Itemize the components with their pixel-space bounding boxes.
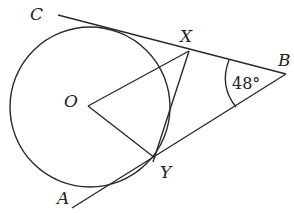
- angle-label: 48°: [232, 74, 260, 93]
- segment-oy: [88, 106, 155, 158]
- label-a: A: [55, 188, 69, 208]
- label-c: C: [30, 4, 43, 24]
- label-x: X: [178, 26, 193, 46]
- label-o: O: [64, 91, 78, 111]
- geometry-diagram: C X B O Y A 48°: [0, 0, 294, 213]
- label-y: Y: [160, 162, 173, 182]
- tangent-line-ab: [72, 74, 286, 208]
- tangent-line-cb: [58, 15, 286, 74]
- label-b: B: [277, 50, 291, 70]
